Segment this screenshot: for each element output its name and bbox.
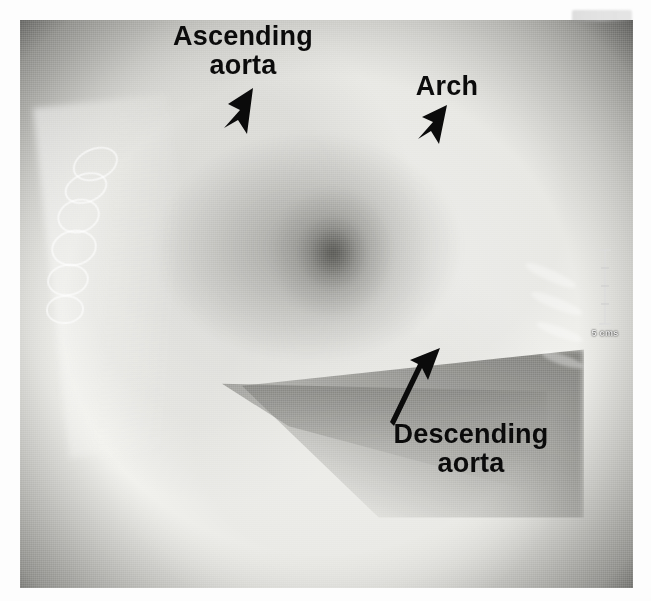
label-ascending-aorta-line1: Ascending: [148, 22, 338, 51]
arrow-ascending-aorta: [206, 84, 266, 146]
film-grain-overlay: [20, 20, 633, 588]
corner-marking: [572, 10, 632, 22]
label-descending-aorta: Descending aorta: [356, 420, 586, 478]
arrow-arch: [408, 100, 456, 150]
scale-bar: 5 cms: [582, 228, 628, 352]
label-arch-line1: Arch: [392, 72, 502, 101]
scale-bar-label: 5 cms: [582, 328, 628, 338]
label-ascending-aorta: Ascending aorta: [148, 22, 338, 80]
label-ascending-aorta-line2: aorta: [148, 51, 338, 80]
radiograph-page: Ascending aorta Arch Descending aorta 5 …: [0, 0, 651, 601]
label-arch: Arch: [392, 72, 502, 101]
scale-bar-ticks: [582, 228, 628, 328]
label-descending-aorta-line1: Descending: [356, 420, 586, 449]
chest-xray-image: [20, 20, 633, 588]
label-descending-aorta-line2: aorta: [356, 449, 586, 478]
